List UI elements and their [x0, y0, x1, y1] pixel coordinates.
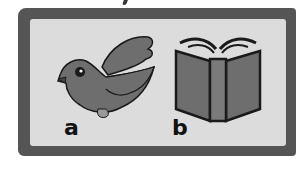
- picture-card-frame: a b: [18, 8, 296, 156]
- picture-card: a b: [30, 19, 286, 146]
- label-b: b: [172, 117, 188, 139]
- cropped-text-fragment: [122, 0, 128, 5]
- bird-icon: [50, 27, 160, 127]
- book-icon: [170, 31, 266, 123]
- label-a: a: [64, 117, 79, 139]
